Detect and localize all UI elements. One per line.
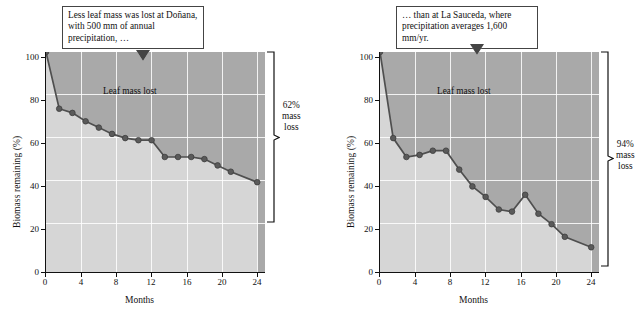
- mass-loss-annotation-right: 94% mass loss: [616, 139, 635, 172]
- y-tick-label-right-0: 0: [351, 267, 373, 277]
- mass-loss-annotation-left: 62% mass loss: [282, 100, 301, 133]
- x-tick-label-right-0: 0: [368, 277, 390, 287]
- y-tick-label-left-0: 0: [17, 267, 39, 277]
- x-tick-label-left-12: 12: [140, 277, 162, 287]
- mass-loss-word2-right: loss: [616, 161, 635, 172]
- x-tick-label-right-4: 4: [404, 277, 426, 287]
- region-label-left: Leaf mass lost: [103, 86, 157, 96]
- x-tick-label-right-8: 8: [439, 277, 461, 287]
- series-line-right: [380, 52, 599, 272]
- x-tick-label-left-20: 20: [211, 277, 233, 287]
- y-tick-label-left-60: 60: [17, 138, 39, 148]
- series-line-left: [46, 52, 265, 272]
- chart-panel-right: Biomass remaining (%) 100 80 60 40 20 0: [318, 0, 636, 321]
- chart-panel-left: Biomass remaining (%) 100 80 60 40 20 0: [0, 0, 318, 321]
- y-tick-label-left-20: 20: [17, 224, 39, 234]
- region-label-right: Leaf mass lost: [437, 86, 491, 96]
- mass-loss-value-left: 62%: [282, 100, 301, 111]
- y-tick-label-right-60: 60: [351, 138, 373, 148]
- x-tick-label-right-12: 12: [474, 277, 496, 287]
- x-tick-label-left-4: 4: [70, 277, 92, 287]
- y-tick-label-right-40: 40: [351, 181, 373, 191]
- callout-right: … than at La Sauceda, where precipitatio…: [396, 6, 538, 49]
- x-tick-label-left-8: 8: [105, 277, 127, 287]
- x-axis-label-left: Months: [125, 295, 154, 305]
- x-tick-label-right-20: 20: [545, 277, 567, 287]
- y-tick-label-right-100: 100: [351, 52, 373, 62]
- y-tick-label-left-80: 80: [17, 95, 39, 105]
- callout-tail-left: [136, 50, 150, 61]
- y-tick-label-right-80: 80: [351, 95, 373, 105]
- x-tick-label-right-16: 16: [510, 277, 532, 287]
- mass-loss-word2-left: loss: [282, 122, 301, 133]
- mass-loss-word1-left: mass: [282, 111, 301, 122]
- callout-tail-right: [470, 44, 484, 55]
- mass-loss-bracket-right: [600, 50, 614, 270]
- x-tick-label-right-24: 24: [580, 277, 602, 287]
- x-axis-label-right: Months: [459, 295, 488, 305]
- mass-loss-value-right: 94%: [616, 139, 635, 150]
- x-tick-label-left-24: 24: [246, 277, 268, 287]
- y-tick-label-right-20: 20: [351, 224, 373, 234]
- mass-loss-word1-right: mass: [616, 150, 635, 161]
- y-tick-label-left-40: 40: [17, 181, 39, 191]
- callout-left: Less leaf mass was lost at Doñana, with …: [62, 6, 204, 49]
- x-tick-label-left-16: 16: [176, 277, 198, 287]
- y-tick-label-left-100: 100: [17, 52, 39, 62]
- mass-loss-bracket-left: [266, 50, 280, 225]
- x-tick-label-left-0: 0: [34, 277, 56, 287]
